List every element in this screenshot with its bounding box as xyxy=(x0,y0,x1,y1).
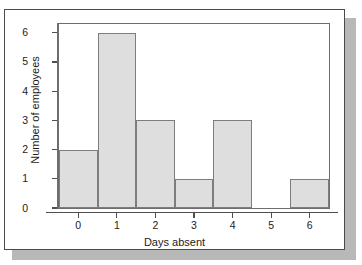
x-axis-tick xyxy=(232,213,233,218)
x-axis-tick-label: 5 xyxy=(261,220,281,231)
y-axis-tick-label: 3 xyxy=(14,115,28,126)
x-axis-tick-label: 0 xyxy=(68,220,88,231)
x-axis-tick xyxy=(78,213,79,218)
y-axis-tick-label: 0 xyxy=(14,203,28,214)
y-axis-tick-label: 5 xyxy=(14,56,28,67)
y-axis-tick-label: 2 xyxy=(14,144,28,155)
y-axis-tick-label: 4 xyxy=(14,86,28,97)
x-axis-tick xyxy=(193,213,194,218)
x-axis-tick-label: 6 xyxy=(300,220,320,231)
bar xyxy=(213,120,252,208)
y-axis-tick-label: 6 xyxy=(14,27,28,38)
x-axis-tick xyxy=(271,213,272,218)
y-axis-tick xyxy=(52,32,57,33)
y-axis-line xyxy=(57,23,58,209)
bar xyxy=(59,150,98,208)
bar xyxy=(98,33,137,208)
y-axis-tick xyxy=(52,61,57,62)
page-background: 0123456 Number of employees 0123456 Days… xyxy=(0,0,362,265)
x-axis-tick-label: 1 xyxy=(107,220,127,231)
x-axis-line xyxy=(46,212,338,213)
x-axis-title: Days absent xyxy=(4,236,345,248)
y-axis-tick xyxy=(52,91,57,92)
y-axis-tick xyxy=(52,178,57,179)
y-axis-tick xyxy=(52,120,57,121)
bar xyxy=(290,179,329,208)
y-axis-tick-label: 1 xyxy=(14,173,28,184)
bar xyxy=(136,120,175,208)
x-axis-tick-label: 2 xyxy=(145,220,165,231)
x-axis-tick xyxy=(309,213,310,218)
y-axis-tick xyxy=(52,149,57,150)
bar-chart: 0123456 Number of employees 0123456 Days… xyxy=(4,9,345,250)
x-axis-tick xyxy=(116,213,117,218)
x-axis-tick-label: 4 xyxy=(223,220,243,231)
y-axis-tick xyxy=(52,207,57,208)
bar xyxy=(175,179,214,208)
x-axis-tick-label: 3 xyxy=(184,220,204,231)
x-axis-tick xyxy=(155,213,156,218)
y-axis-title: Number of employees xyxy=(29,40,41,180)
bars-layer xyxy=(59,24,329,208)
